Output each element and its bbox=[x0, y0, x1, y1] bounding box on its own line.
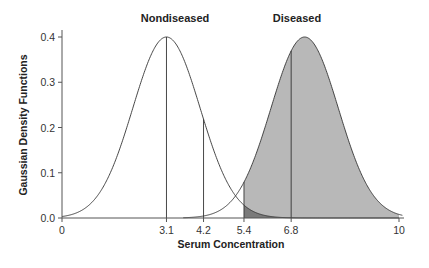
y-ticks: 0.00.10.20.30.4 bbox=[40, 31, 62, 224]
x-axis-title: Serum Concentration bbox=[178, 238, 285, 250]
diseased-label: Diseased bbox=[273, 12, 321, 24]
y-tick-label: 0.3 bbox=[40, 76, 55, 88]
y-axis-title: Gaussian Density Functions bbox=[17, 54, 29, 195]
x-tick-label: 6.8 bbox=[284, 224, 299, 236]
diseased-shaded-area bbox=[244, 37, 399, 218]
x-ticks: 03.14.25.46.810 bbox=[59, 218, 405, 236]
x-tick-label: 5.4 bbox=[237, 224, 252, 236]
x-tick-label: 4.2 bbox=[196, 224, 211, 236]
y-tick-label: 0.0 bbox=[40, 212, 55, 224]
y-tick-label: 0.4 bbox=[40, 31, 55, 43]
nondiseased-label: Nondiseased bbox=[141, 12, 209, 24]
y-tick-label: 0.2 bbox=[40, 122, 55, 134]
x-tick-label: 0 bbox=[59, 224, 65, 236]
x-tick-label: 3.1 bbox=[159, 224, 174, 236]
x-tick-label: 10 bbox=[393, 224, 405, 236]
gaussian-density-chart: 0.00.10.20.30.4 03.14.25.46.810 Nondisea… bbox=[0, 0, 429, 268]
plot-area bbox=[62, 37, 402, 218]
y-tick-label: 0.1 bbox=[40, 167, 55, 179]
